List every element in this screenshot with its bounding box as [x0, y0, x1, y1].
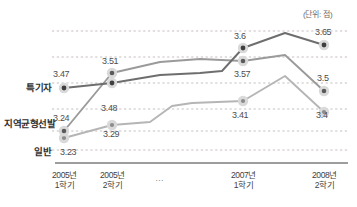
xtick-2005-1-line1: 2005년 [52, 170, 77, 180]
xtick-2005-2-line1: 2005년 [100, 170, 125, 180]
xtick-2007-1-line2: 1학기 [221, 181, 266, 191]
xtick-2008-2-line2: 2학기 [302, 181, 347, 191]
value-label-general-2005-1: 3.23 [60, 147, 76, 157]
series-label-regional: 지역균형선발 [4, 119, 56, 130]
value-label-regional-2008-2: 3.5 [317, 73, 329, 83]
series-label-special: 특기자 [26, 83, 52, 94]
xtick-2008-2: 2008년 2학기 [302, 171, 347, 191]
xtick-2007-1: 2007년 1학기 [221, 171, 266, 191]
line-chart: (단위: 점) 특기자 지역균형선발 일반 3.47 3.48 3.6 3.65… [0, 0, 357, 207]
value-label-regional-2007-1: 3.57 [234, 69, 250, 79]
series-line-regional [64, 55, 324, 131]
series-markers-regional [59, 56, 329, 136]
value-label-regional-2005-1: 3.24 [53, 113, 69, 123]
unit-note: (단위: 점) [303, 10, 332, 19]
series-label-general: 일반 [34, 147, 51, 158]
value-label-special-2007-1: 3.6 [234, 31, 246, 41]
xtick-2005-2-line2: 2학기 [90, 181, 135, 191]
xtick-2007-1-line1: 2007년 [231, 170, 256, 180]
xtick-2005-1: 2005년 1학기 [42, 171, 87, 191]
xtick-ellipsis: … [155, 173, 165, 183]
xtick-2005-1-line2: 1학기 [42, 181, 87, 191]
xtick-2005-2: 2005년 2학기 [90, 171, 135, 191]
value-label-regional-2005-2: 3.51 [102, 56, 118, 66]
xtick-2008-2-line1: 2008년 [312, 170, 337, 180]
value-label-general-2007-1: 3.41 [232, 110, 248, 120]
value-label-special-2005-2: 3.48 [101, 103, 117, 113]
value-label-special-2008-2: 3.65 [315, 27, 331, 37]
value-label-special-2005-1: 3.47 [53, 69, 69, 79]
value-label-general-2005-2: 3.29 [103, 129, 119, 139]
value-label-general-2008-2: 3.4 [316, 110, 328, 120]
